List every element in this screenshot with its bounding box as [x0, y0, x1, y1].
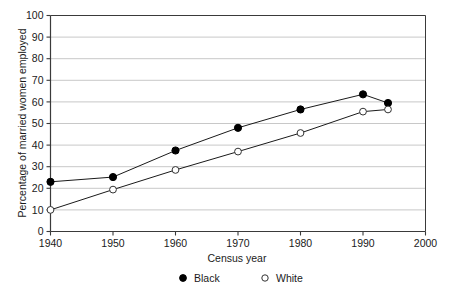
data-point-white	[385, 106, 392, 113]
y-tick-label: 50	[32, 117, 44, 129]
line-chart: 0102030405060708090100 19401950196019701…	[0, 0, 454, 301]
legend-marker-black-icon	[180, 275, 187, 282]
x-tick-label: 1990	[351, 237, 375, 249]
y-tick-label: 100	[26, 9, 44, 21]
y-tick-label: 30	[32, 160, 44, 172]
data-point-black	[47, 178, 54, 185]
chart-container: 0102030405060708090100 19401950196019701…	[0, 0, 454, 301]
y-tick-label: 40	[32, 139, 44, 151]
legend-marker-white-icon	[262, 275, 268, 281]
x-tick-label: 1960	[164, 237, 188, 249]
data-point-white	[110, 186, 117, 193]
data-point-white	[172, 167, 179, 174]
y-tick-label: 90	[32, 31, 44, 43]
x-tick-label: 1980	[289, 237, 313, 249]
x-tick-label: 2000	[414, 237, 438, 249]
series-markers	[47, 91, 392, 214]
x-axis-tick-labels: 1940195019601970198019902000	[39, 237, 438, 249]
legend-label-black: Black	[194, 272, 220, 284]
data-point-white	[47, 207, 54, 214]
series-lines	[51, 94, 389, 210]
data-point-white	[297, 130, 304, 137]
x-tick-label: 1970	[226, 237, 250, 249]
series-line-white	[51, 109, 389, 209]
y-tick-label: 70	[32, 74, 44, 86]
x-tick-label: 1950	[101, 237, 125, 249]
data-point-black	[384, 99, 391, 106]
y-tick-label: 0	[38, 225, 44, 237]
chart-legend: Black White	[180, 272, 303, 284]
series-line-black	[51, 94, 389, 181]
data-point-black	[172, 147, 179, 154]
data-point-black	[359, 91, 366, 98]
data-point-black	[234, 124, 241, 131]
data-point-white	[235, 148, 242, 155]
x-axis-title: Census year	[208, 252, 267, 264]
grid-lines	[51, 16, 426, 210]
x-tick-label: 1940	[39, 237, 63, 249]
y-axis-tick-labels: 0102030405060708090100	[26, 9, 44, 237]
y-tick-label: 10	[32, 204, 44, 216]
y-tick-label: 20	[32, 182, 44, 194]
y-axis-title: Percentage of married women employed	[16, 28, 28, 217]
data-point-black	[297, 106, 304, 113]
x-tick-marks	[51, 232, 426, 236]
data-point-black	[109, 173, 116, 180]
data-point-white	[360, 108, 367, 115]
legend-label-white: White	[276, 272, 303, 284]
y-tick-label: 60	[32, 96, 44, 108]
y-tick-label: 80	[32, 52, 44, 64]
